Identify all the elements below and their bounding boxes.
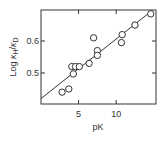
x-tick-label: 5 <box>76 109 81 119</box>
data-point <box>118 39 124 45</box>
data-point <box>119 31 125 37</box>
y-tick-label: 0.6 <box>26 36 39 46</box>
data-point <box>94 52 100 58</box>
data-point <box>76 63 82 69</box>
data-points <box>59 11 154 96</box>
data-point <box>148 11 154 17</box>
data-point <box>59 89 65 95</box>
scatter-plot: 510 0.50.6 pK Log κH/κD <box>0 0 166 141</box>
data-point <box>70 71 76 77</box>
data-point <box>66 86 72 92</box>
y-tick-label: 0.5 <box>26 68 39 78</box>
y-tick-labels: 0.50.6 <box>26 36 39 78</box>
data-point <box>90 35 96 41</box>
x-tick-label: 10 <box>111 109 121 119</box>
x-tick-labels: 510 <box>76 109 121 119</box>
data-point <box>132 22 138 28</box>
data-point <box>86 60 92 66</box>
y-axis-label: Log κH/κD <box>8 37 19 76</box>
x-axis-label: pK <box>92 122 103 132</box>
